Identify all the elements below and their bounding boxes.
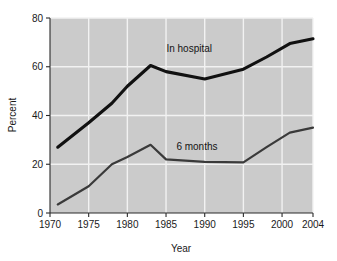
x-tick-label: 1975 xyxy=(78,219,101,230)
line-chart: 020406080 197019751980198519901995200020… xyxy=(0,0,337,261)
series-annotation-in-hospital: In hospital xyxy=(166,43,212,54)
y-tick-label: 20 xyxy=(32,159,44,170)
x-axis-title: Year xyxy=(171,243,192,254)
x-axis-tick-labels: 19701975198019851990199520002004 xyxy=(39,219,325,230)
y-tick-label: 40 xyxy=(32,110,44,121)
x-axis-tick-marks xyxy=(50,213,313,217)
y-tick-label: 60 xyxy=(32,61,44,72)
y-axis-tick-labels: 020406080 xyxy=(32,13,44,219)
x-tick-label: 1980 xyxy=(116,219,139,230)
x-tick-label: 1990 xyxy=(194,219,217,230)
x-tick-label: 2004 xyxy=(302,219,325,230)
y-axis-title: Percent xyxy=(7,98,18,133)
chart-canvas: 020406080 197019751980198519901995200020… xyxy=(0,0,337,261)
x-tick-label: 1985 xyxy=(155,219,178,230)
x-tick-label: 2000 xyxy=(271,219,294,230)
series-annotation-6-months: 6 months xyxy=(176,141,217,152)
y-tick-label: 80 xyxy=(32,13,44,24)
x-tick-label: 1995 xyxy=(232,219,255,230)
y-tick-label: 0 xyxy=(37,208,43,219)
y-axis-tick-marks xyxy=(46,18,50,213)
x-tick-label: 1970 xyxy=(39,219,62,230)
